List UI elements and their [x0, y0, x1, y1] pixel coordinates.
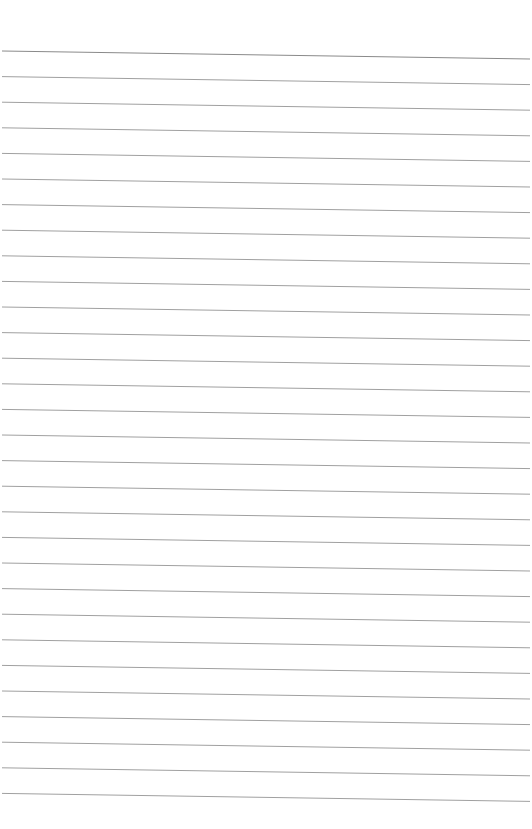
ruled-line — [2, 768, 530, 776]
ruled-line — [2, 691, 530, 699]
ruled-line — [2, 461, 530, 469]
ruled-line — [2, 333, 530, 341]
ruled-line — [2, 256, 530, 264]
ruled-line — [2, 230, 530, 238]
ruled-line — [2, 358, 530, 366]
ruled-line — [2, 717, 530, 725]
ruled-line — [2, 205, 530, 213]
ruled-line — [2, 512, 530, 520]
ruled-line — [2, 435, 530, 443]
ruled-line — [2, 537, 530, 545]
ruled-line — [2, 128, 530, 136]
ruled-line — [2, 742, 530, 750]
ruled-line — [2, 102, 530, 110]
ruled-line — [2, 281, 530, 289]
ruled-line — [2, 589, 530, 597]
ruled-line — [2, 486, 530, 494]
ruled-line — [2, 793, 530, 801]
ruled-line — [2, 51, 530, 59]
ruled-line — [2, 640, 530, 648]
ruled-line — [2, 614, 530, 622]
ruled-line — [2, 153, 530, 161]
ruled-line — [2, 384, 530, 392]
lined-paper-page — [0, 0, 532, 829]
ruled-line — [2, 77, 530, 85]
ruled-line — [2, 665, 530, 673]
ruled-line — [2, 409, 530, 417]
ruled-line — [2, 563, 530, 571]
ruled-lines — [0, 0, 532, 829]
ruled-line — [2, 179, 530, 187]
ruled-line — [2, 307, 530, 315]
